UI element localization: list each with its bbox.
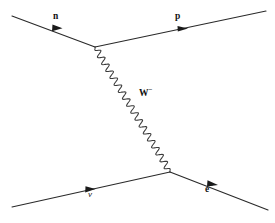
proton-arrow-icon xyxy=(178,26,189,31)
w-boson-label-text: W xyxy=(139,88,149,98)
w-boson-wavy-line xyxy=(95,47,170,172)
electron-line xyxy=(170,172,268,210)
proton-label: p xyxy=(175,12,180,22)
electron-charge-superscript: − xyxy=(209,182,213,190)
feynman-diagram-svg xyxy=(0,0,275,223)
feynman-diagram-canvas: n p W− ν e− xyxy=(0,0,275,223)
neutron-label: n xyxy=(53,12,58,22)
w-boson-label: W− xyxy=(139,89,153,99)
neutrino-label: ν xyxy=(88,190,92,199)
electron-label: e− xyxy=(205,185,213,195)
w-boson-charge-superscript: − xyxy=(149,86,153,94)
neutron-arrow-icon xyxy=(52,25,63,32)
